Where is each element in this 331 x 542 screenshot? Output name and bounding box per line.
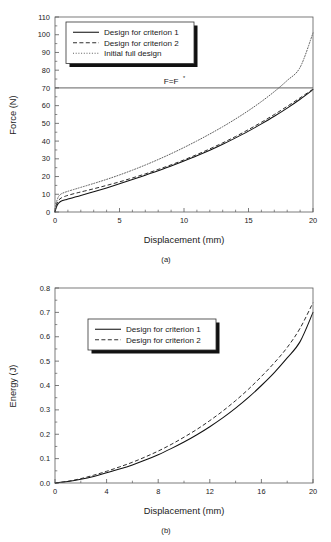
x-tick-label: 16 xyxy=(257,487,265,496)
y-tick-label: 70 xyxy=(42,84,50,93)
subcaption-b: (b) xyxy=(161,526,171,535)
y-axis-title-b: Energy (J) xyxy=(8,365,18,408)
series-line-design-criterion-1 xyxy=(55,90,313,212)
y-axis-ticks-b xyxy=(55,288,59,483)
y-axis-tick-labels-a: 0102030405060708090100110 xyxy=(38,13,50,217)
x-tick-label: 20 xyxy=(309,216,317,225)
subcaption-a: (a) xyxy=(161,255,171,264)
legend-b: Design for criterion 1Design for criteri… xyxy=(88,319,220,354)
x-tick-label: 8 xyxy=(156,487,160,496)
series-line-design-criterion-2 xyxy=(55,89,313,212)
y-tick-label: 0.7 xyxy=(40,308,50,317)
figure-container: 0102030405060708090100110 05101520 F=F *… xyxy=(0,0,331,542)
legend-label: Design for criterion 2 xyxy=(104,39,179,48)
x-tick-label: 4 xyxy=(105,487,109,496)
y-tick-label: 0.5 xyxy=(40,357,50,366)
y-tick-label: 50 xyxy=(42,119,50,128)
y-tick-label: 0.4 xyxy=(40,381,50,390)
y-axis-title-a: Force (N) xyxy=(8,95,18,134)
x-tick-label: 5 xyxy=(117,216,121,225)
y-tick-label: 0.6 xyxy=(40,332,50,341)
y-tick-label: 90 xyxy=(42,48,50,57)
y-tick-label: 100 xyxy=(38,30,50,39)
x-tick-label: 15 xyxy=(244,216,252,225)
y-tick-label: 20 xyxy=(42,172,50,181)
y-tick-label: 0.2 xyxy=(40,430,50,439)
legend-label: Design for criterion 2 xyxy=(126,336,201,345)
y-tick-label: 0 xyxy=(46,208,50,217)
annotation-label-f-equals-fstar: F=F xyxy=(164,77,179,86)
y-tick-label: 0.8 xyxy=(40,284,50,293)
x-tick-label: 0 xyxy=(53,487,57,496)
x-axis-title-b: Displacement (mm) xyxy=(144,506,225,516)
y-tick-label: 0.1 xyxy=(40,454,50,463)
x-axis-tick-labels-b: 048121620 xyxy=(53,487,317,496)
chart-b-svg: 0.00.10.20.30.40.50.60.70.8 048121620 De… xyxy=(0,271,331,542)
annotation-superscript-star: * xyxy=(183,75,186,81)
x-axis-title-a: Displacement (mm) xyxy=(144,235,225,245)
chart-panel-b: 0.00.10.20.30.40.50.60.70.8 048121620 De… xyxy=(0,271,331,542)
y-tick-label: 30 xyxy=(42,154,50,163)
legend-label: Design for criterion 1 xyxy=(126,325,201,334)
y-tick-label: 40 xyxy=(42,137,50,146)
legend-a: Design for criterion 1Design for criteri… xyxy=(66,22,198,67)
y-tick-label: 110 xyxy=(38,13,50,22)
x-axis-ticks-a xyxy=(55,208,313,212)
y-tick-label: 0.0 xyxy=(40,479,50,488)
y-tick-label: 60 xyxy=(42,101,50,110)
x-tick-label: 20 xyxy=(309,487,317,496)
y-axis-ticks-a xyxy=(55,17,59,212)
x-axis-ticks-b xyxy=(55,479,313,483)
legend-label: Design for criterion 1 xyxy=(104,28,179,37)
plot-frame-b xyxy=(55,288,313,483)
chart-a-svg: 0102030405060708090100110 05101520 F=F *… xyxy=(0,0,331,271)
legend-label: Initial full design xyxy=(104,49,162,58)
y-tick-label: 0.3 xyxy=(40,405,50,414)
x-axis-tick-labels-a: 05101520 xyxy=(53,216,317,225)
x-tick-label: 12 xyxy=(206,487,214,496)
x-tick-label: 0 xyxy=(53,216,57,225)
y-tick-label: 10 xyxy=(42,190,50,199)
chart-panel-a: 0102030405060708090100110 05101520 F=F *… xyxy=(0,0,331,271)
x-tick-label: 10 xyxy=(180,216,188,225)
y-tick-label: 80 xyxy=(42,66,50,75)
y-axis-tick-labels-b: 0.00.10.20.30.40.50.60.70.8 xyxy=(40,284,50,488)
